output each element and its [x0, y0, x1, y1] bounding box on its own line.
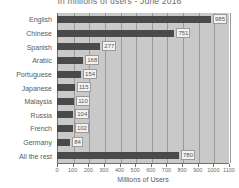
- bar-chart: In millions of users - June 2016 English…: [0, 0, 239, 188]
- x-axis-title: Millions of Users: [57, 176, 229, 183]
- bar-row: 751: [57, 27, 229, 41]
- category-label: English: [29, 15, 52, 24]
- bar-value-label: 154: [83, 69, 97, 79]
- category-label: Japanese: [22, 84, 52, 93]
- x-tick-label: 1100: [220, 167, 238, 173]
- bar-value-label: 985: [213, 14, 227, 24]
- category-label: Spanish: [27, 43, 52, 52]
- bar: [57, 125, 73, 132]
- bar-value-label: 168: [85, 55, 99, 65]
- bar-row: 985: [57, 13, 229, 27]
- bar: [57, 139, 70, 146]
- x-axis-line: [57, 163, 229, 164]
- bar-value-label: 104: [75, 109, 89, 119]
- bar-value-label: 277: [102, 41, 116, 51]
- bar-row: 115: [57, 81, 229, 95]
- category-axis-labels: EnglishChineseSpanishArabicPortugueseJap…: [0, 13, 55, 163]
- category-label: French: [30, 124, 52, 133]
- bar: [57, 16, 211, 23]
- category-label: All the rest: [19, 152, 52, 161]
- gridline: [230, 13, 231, 163]
- bar-row: 154: [57, 68, 229, 82]
- bar-value-label: 751: [176, 28, 190, 38]
- bar: [57, 152, 179, 159]
- bar-row: 102: [57, 122, 229, 136]
- bar: [57, 43, 100, 50]
- bar: [57, 71, 81, 78]
- category-label: Chinese: [26, 29, 52, 38]
- bar: [57, 30, 174, 37]
- bar: [57, 98, 74, 105]
- bar: [57, 57, 83, 64]
- bar-value-label: 115: [77, 82, 91, 92]
- bar-row: 277: [57, 40, 229, 54]
- category-label: Portuguese: [16, 70, 52, 79]
- category-label: Russia: [31, 111, 52, 120]
- bar-value-label: 84: [72, 137, 83, 147]
- bar-row: 84: [57, 136, 229, 150]
- category-label: Germany: [23, 138, 52, 147]
- bar: [57, 84, 75, 91]
- bar-row: 104: [57, 108, 229, 122]
- bar-row: 110: [57, 95, 229, 109]
- bar-value-label: 110: [76, 96, 90, 106]
- bar-row: 780: [57, 149, 229, 163]
- bar-value-label: 102: [75, 123, 89, 133]
- category-label: Arabic: [32, 56, 52, 65]
- chart-title: In millions of users - June 2016: [0, 0, 239, 6]
- category-label: Malaysia: [24, 97, 52, 106]
- bar-row: 168: [57, 54, 229, 68]
- bar: [57, 111, 73, 118]
- bar-value-label: 780: [181, 150, 195, 160]
